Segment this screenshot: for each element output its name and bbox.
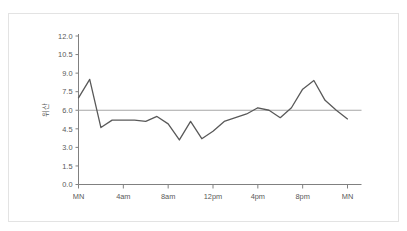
x-tick-label: 4am — [116, 192, 130, 201]
x-tick-label: MN — [342, 192, 354, 201]
y-tick-label: 10.5 — [58, 50, 72, 59]
y-tick-label: 6.0 — [62, 106, 72, 115]
x-tick-label: 12pm — [204, 192, 223, 201]
series-line — [79, 79, 348, 140]
y-tick-label: 3.0 — [62, 143, 72, 152]
x-tick-label: MN — [73, 192, 85, 201]
x-tick-label: 8pm — [295, 192, 309, 201]
y-tick-label: 1.5 — [62, 162, 72, 171]
y-tick-label: 0.0 — [62, 180, 72, 189]
y-tick-label: 4.5 — [62, 125, 72, 134]
y-axis-title-text: 위산 — [41, 103, 50, 117]
x-tick-label: 8am — [161, 192, 175, 201]
y-tick-label: 7.5 — [62, 87, 72, 96]
y-axis-title: 위산 — [41, 103, 50, 117]
x-tick-label: 4pm — [251, 192, 265, 201]
x-axis: MN4am8am12pm4pm8pmMN — [73, 185, 362, 202]
y-tick-label: 9.0 — [62, 69, 72, 78]
data-series — [79, 79, 348, 140]
y-tick-label: 12.0 — [58, 32, 72, 41]
y-axis: 0.01.53.04.56.07.59.010.512.0 — [58, 32, 78, 190]
line-chart-plot: 0.01.53.04.56.07.59.010.512.0 MN4am8am12… — [0, 0, 407, 231]
